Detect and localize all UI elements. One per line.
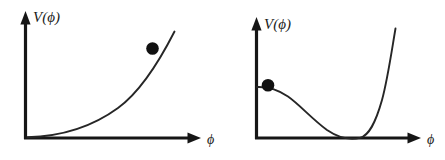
- potential-figure: V(ϕ) ϕ V(ϕ) ϕ: [0, 0, 445, 160]
- right-y-axis-label: V(ϕ): [264, 16, 291, 33]
- right-ball-marker: [262, 79, 275, 92]
- figure-canvas: V(ϕ) ϕ V(ϕ) ϕ: [0, 0, 445, 160]
- left-y-axis-label: V(ϕ): [33, 9, 60, 26]
- left-x-axis-label: ϕ: [207, 132, 214, 147]
- left-ball-marker: [146, 42, 159, 55]
- right-x-axis-label: ϕ: [427, 132, 434, 147]
- figure-background: [0, 0, 445, 160]
